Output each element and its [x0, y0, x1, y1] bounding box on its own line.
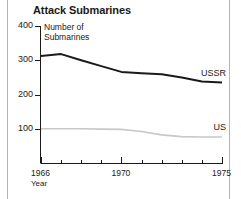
- chart-figure: Attack Submarines Number of Submarines 4…: [0, 0, 241, 199]
- x-tick-marks: [42, 157, 223, 164]
- y-tick-label: 200: [11, 89, 33, 99]
- series-label-us: US: [196, 122, 226, 132]
- y-tick-label: 300: [11, 54, 33, 64]
- series-lines: [41, 54, 222, 137]
- series-line-ussr: [41, 54, 222, 82]
- x-tick-label: 1975: [212, 168, 231, 178]
- axes-group: [41, 26, 223, 164]
- x-tick-label: 1966: [31, 168, 50, 178]
- x-axis-title: Year: [31, 179, 47, 188]
- y-tick-label: 400: [11, 20, 33, 30]
- y-tick-label: 100: [11, 123, 33, 133]
- series-line-us: [41, 129, 222, 137]
- series-label-ussr: USSR: [196, 68, 226, 78]
- x-tick-label: 1970: [111, 168, 130, 178]
